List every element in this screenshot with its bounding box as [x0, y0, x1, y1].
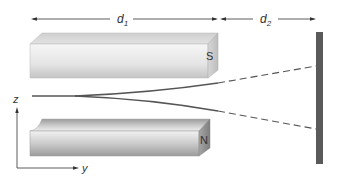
arrow-right-icon	[212, 17, 218, 20]
d1-label: d1	[117, 12, 128, 28]
pole-label-n: N	[200, 134, 208, 146]
beam-upper-path	[32, 83, 218, 96]
arrow-left-icon	[220, 17, 226, 20]
pole-label-s: S	[206, 50, 213, 62]
arrow-right-icon	[310, 17, 316, 20]
beam-upper-projection	[218, 66, 316, 83]
z-axis-label: z	[12, 93, 19, 105]
detector-screen	[316, 32, 323, 164]
stern-gerlach-diagram: d1 d2 S N z y	[0, 0, 339, 185]
y-axis-label: y	[81, 162, 89, 174]
dimension-d1: d1	[31, 12, 218, 28]
magnet-south: S	[30, 33, 218, 78]
beam-lower-projection	[218, 111, 316, 129]
arrow-right-icon	[73, 166, 79, 169]
d2-label: d2	[260, 12, 272, 28]
arrow-left-icon	[31, 17, 37, 20]
arrow-up-icon	[15, 107, 18, 113]
beam-lower-path	[75, 96, 218, 111]
dimension-d2: d2	[220, 12, 316, 28]
magnet-north: N	[30, 119, 210, 156]
